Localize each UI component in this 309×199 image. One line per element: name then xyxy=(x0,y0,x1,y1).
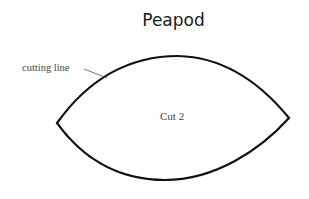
leader-line xyxy=(84,69,107,78)
cut-count-label: Cut 2 xyxy=(160,110,184,122)
cutting-line-label: cutting line xyxy=(22,62,70,73)
peapod-pattern-shape xyxy=(0,0,309,199)
